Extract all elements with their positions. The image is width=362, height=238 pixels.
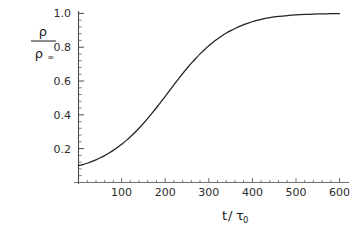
x-tick-label: 500 [286,186,307,199]
y-tick-label: 0.2 [54,143,72,156]
y-axis-label-denominator: ρ [35,46,43,61]
x-axis-label-slash: / [228,208,233,223]
plot-canvas: ρ ρ ∞ 1.0 0.8 0.6 0.4 0.2 [0,0,362,238]
x-tick-label: 200 [155,186,176,199]
x-tick-label: 100 [111,186,132,199]
y-tick-label: 0.4 [54,109,72,122]
x-axis-label: t / τ 0 [222,208,248,225]
y-axis-label: ρ ρ ∞ [31,24,56,62]
y-tick-label: 1.0 [54,7,72,20]
x-axis-label-numerator: t [222,208,227,223]
chart-figure: ρ ρ ∞ 1.0 0.8 0.6 0.4 0.2 [0,0,362,238]
x-tick-label: 300 [198,186,219,199]
y-axis-label-numerator: ρ [39,24,47,39]
x-axis-label-denominator-subscript: 0 [243,215,248,225]
x-tick-label: 400 [242,186,263,199]
y-tick-label: 0.6 [54,75,72,88]
x-axis-ticks: 100 200 300 400 500 600 [111,178,350,199]
y-tick-label: 0.8 [54,41,72,54]
x-tick-label: 600 [329,186,350,199]
data-curve-density-ratio [79,14,340,166]
y-axis-ticks: 1.0 0.8 0.6 0.4 0.2 [54,7,85,155]
